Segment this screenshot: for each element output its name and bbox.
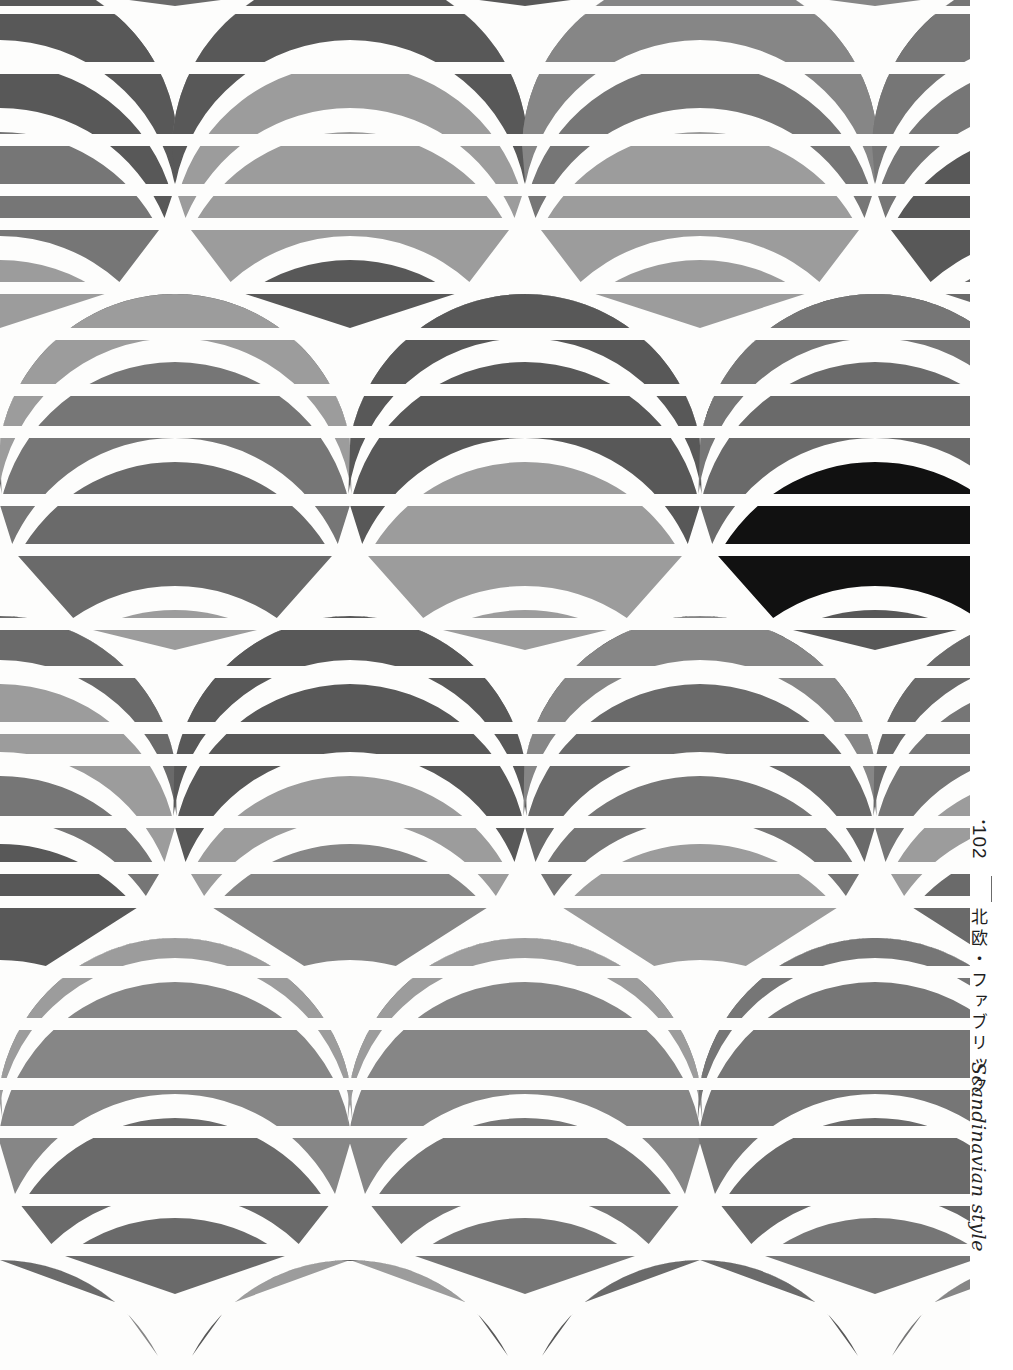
- page-margin-column: •102 北欧・ファブリック Scandinavian style: [970, 0, 1013, 1370]
- folio-divider-rule: [991, 876, 992, 902]
- chapter-title-english: Scandinavian style: [968, 1062, 990, 1252]
- pattern-canvas: [0, 0, 970, 1370]
- book-page: •102 北欧・ファブリック Scandinavian style: [0, 0, 1013, 1370]
- folio-number: 102: [969, 825, 990, 860]
- fabric-pattern-artwork: [0, 0, 970, 1370]
- page-folio: •102: [968, 820, 990, 860]
